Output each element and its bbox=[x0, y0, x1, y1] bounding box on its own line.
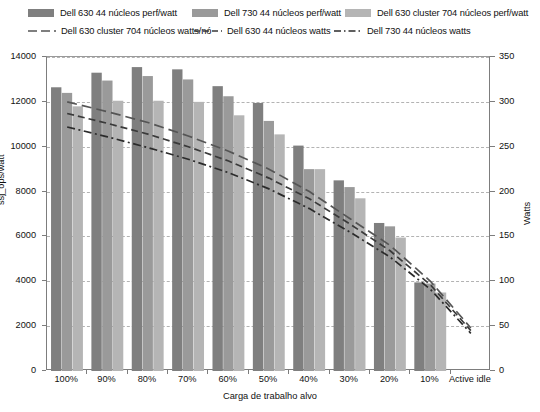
legend-swatch-dell730 bbox=[192, 9, 218, 17]
x-axis-tick-mark bbox=[288, 370, 289, 374]
bar bbox=[253, 103, 263, 371]
x-axis-tick-mark bbox=[450, 370, 451, 374]
x-axis-tick-label: 10% bbox=[420, 374, 438, 384]
x-axis-tick-label: 50% bbox=[259, 374, 277, 384]
legend-item-dell630cluster-wattsno: Dell 630 cluster 704 núcleos watts/nó bbox=[28, 22, 211, 40]
y-axis-right-tick-label: 150 bbox=[499, 230, 514, 240]
bar bbox=[223, 96, 233, 371]
y-axis-right-tick-mark bbox=[490, 56, 495, 57]
x-axis-tick-mark bbox=[409, 370, 410, 374]
x-axis-tick-mark bbox=[86, 370, 87, 374]
y-axis-left-tick-label: 8000 bbox=[16, 186, 36, 196]
y-axis-left-tick-label: 4000 bbox=[16, 275, 36, 285]
legend-item-dell630-perfwatt: Dell 630 44 núcleos perf/watt bbox=[28, 4, 177, 22]
legend-row-bars: Dell 630 44 núcleos perf/watt Dell 730 4… bbox=[0, 4, 540, 22]
x-axis-tick-label: 30% bbox=[340, 374, 358, 384]
bar bbox=[274, 134, 284, 371]
y-axis-left: 02000400060008000100001200014000 bbox=[0, 56, 42, 370]
bar bbox=[172, 69, 182, 371]
legend-label-dell630cluster-perfwatt: Dell 630 cluster 704 núcleos perf/watt bbox=[377, 8, 528, 18]
x-axis-tick-label: 40% bbox=[299, 374, 317, 384]
y-axis-left-tick-label: 14000 bbox=[10, 51, 36, 61]
bar bbox=[344, 187, 354, 371]
x-axis-tick-label: 80% bbox=[138, 374, 156, 384]
y-axis-right-title: Watts bbox=[522, 202, 532, 225]
y-axis-right-tick-mark bbox=[490, 235, 495, 236]
bar bbox=[73, 106, 83, 371]
x-axis-tick-mark bbox=[127, 370, 128, 374]
y-axis-left-tick-label: 6000 bbox=[16, 230, 36, 240]
legend-label-dell630-perfwatt: Dell 630 44 núcleos perf/watt bbox=[60, 8, 177, 18]
x-axis-tick-mark bbox=[329, 370, 330, 374]
bar bbox=[183, 79, 193, 371]
legend-line-long-dash-icon bbox=[28, 26, 56, 36]
bar bbox=[355, 198, 365, 371]
legend-swatch-dell630 bbox=[28, 9, 54, 17]
legend-item-dell630cluster-perfwatt: Dell 630 cluster 704 núcleos perf/watt bbox=[345, 4, 528, 22]
legend-label-dell730-perfwatt: Dell 730 44 núcleos perf/watt bbox=[224, 8, 341, 18]
legend-row-lines: Dell 630 cluster 704 núcleos watts/nó De… bbox=[0, 22, 540, 40]
y-axis-right-tick-mark bbox=[490, 370, 495, 371]
y-axis-right-tick-label: 350 bbox=[499, 51, 514, 61]
legend-label-dell630cluster-wattsno: Dell 630 cluster 704 núcleos watts/nó bbox=[61, 26, 211, 36]
x-axis-tick-label: 100% bbox=[54, 374, 78, 384]
legend-item-dell730-watts: Dell 730 44 núcleos watts bbox=[334, 22, 470, 40]
plot-series-layer bbox=[47, 57, 491, 371]
x-axis-tick-label: 90% bbox=[97, 374, 115, 384]
y-axis-right-tick-label: 300 bbox=[499, 96, 514, 106]
bar bbox=[264, 121, 274, 371]
y-axis-right-tick-mark bbox=[490, 146, 495, 147]
legend-item-dell730-perfwatt: Dell 730 44 núcleos perf/watt bbox=[192, 4, 341, 22]
legend-label-dell730-watts: Dell 730 44 núcleos watts bbox=[367, 26, 470, 36]
bar bbox=[132, 67, 142, 371]
legend-line-dash-dot-icon bbox=[334, 26, 362, 36]
x-axis-tick-label: 20% bbox=[380, 374, 398, 384]
bar bbox=[414, 282, 424, 371]
bar bbox=[234, 115, 244, 371]
legend-line-dashed-icon bbox=[194, 26, 222, 36]
plot-area bbox=[46, 56, 490, 370]
x-axis-title: Carga de trabalho alvo bbox=[0, 391, 540, 401]
x-axis-tick-mark bbox=[248, 370, 249, 374]
x-axis-tick-mark bbox=[207, 370, 208, 374]
y-axis-right-tick-label: 100 bbox=[499, 275, 514, 285]
bar bbox=[436, 293, 446, 372]
legend-swatch-dell630-cluster bbox=[345, 9, 371, 17]
x-axis-tick-label: 60% bbox=[218, 374, 236, 384]
bar bbox=[51, 87, 61, 371]
y-axis-right-tick-label: 50 bbox=[499, 320, 509, 330]
chart-container: Dell 630 44 núcleos perf/watt Dell 730 4… bbox=[0, 0, 540, 412]
legend-label-dell630-watts: Dell 630 44 núcleos watts bbox=[227, 26, 330, 36]
y-axis-right-tick-label: 0 bbox=[499, 365, 504, 375]
y-axis-left-tick-label: 2000 bbox=[16, 320, 36, 330]
legend-item-dell630-watts: Dell 630 44 núcleos watts bbox=[194, 22, 330, 40]
x-axis-tick-mark bbox=[369, 370, 370, 374]
y-axis-left-tick-label: 0 bbox=[31, 365, 36, 375]
y-axis-left-tick-label: 10000 bbox=[10, 141, 36, 151]
x-axis-tick-label: Active idle bbox=[449, 374, 491, 384]
x-axis-tick-mark bbox=[167, 370, 168, 374]
bar bbox=[91, 73, 101, 371]
y-axis-right-tick-label: 200 bbox=[499, 186, 514, 196]
y-axis-left-tick-mark bbox=[42, 370, 46, 371]
y-axis-right-tick-mark bbox=[490, 280, 495, 281]
y-axis-right-tick-mark bbox=[490, 325, 495, 326]
y-axis-left-title: ssj_ops/watt bbox=[0, 154, 6, 205]
y-axis-right-tick-label: 250 bbox=[499, 141, 514, 151]
y-axis-right-tick-mark bbox=[490, 191, 495, 192]
bar bbox=[143, 76, 153, 371]
x-axis-labels: 100%90%80%70%60%50%40%30%20%10%Active id… bbox=[46, 374, 490, 390]
y-axis-left-tick-label: 12000 bbox=[10, 96, 36, 106]
bar bbox=[425, 284, 435, 371]
bar bbox=[62, 93, 72, 371]
bar bbox=[194, 102, 204, 371]
x-axis-tick-label: 70% bbox=[178, 374, 196, 384]
chart-legend: Dell 630 44 núcleos perf/watt Dell 730 4… bbox=[0, 0, 540, 44]
bar bbox=[212, 86, 222, 371]
bar bbox=[293, 146, 303, 371]
bar bbox=[153, 101, 163, 371]
y-axis-right-tick-mark bbox=[490, 101, 495, 102]
